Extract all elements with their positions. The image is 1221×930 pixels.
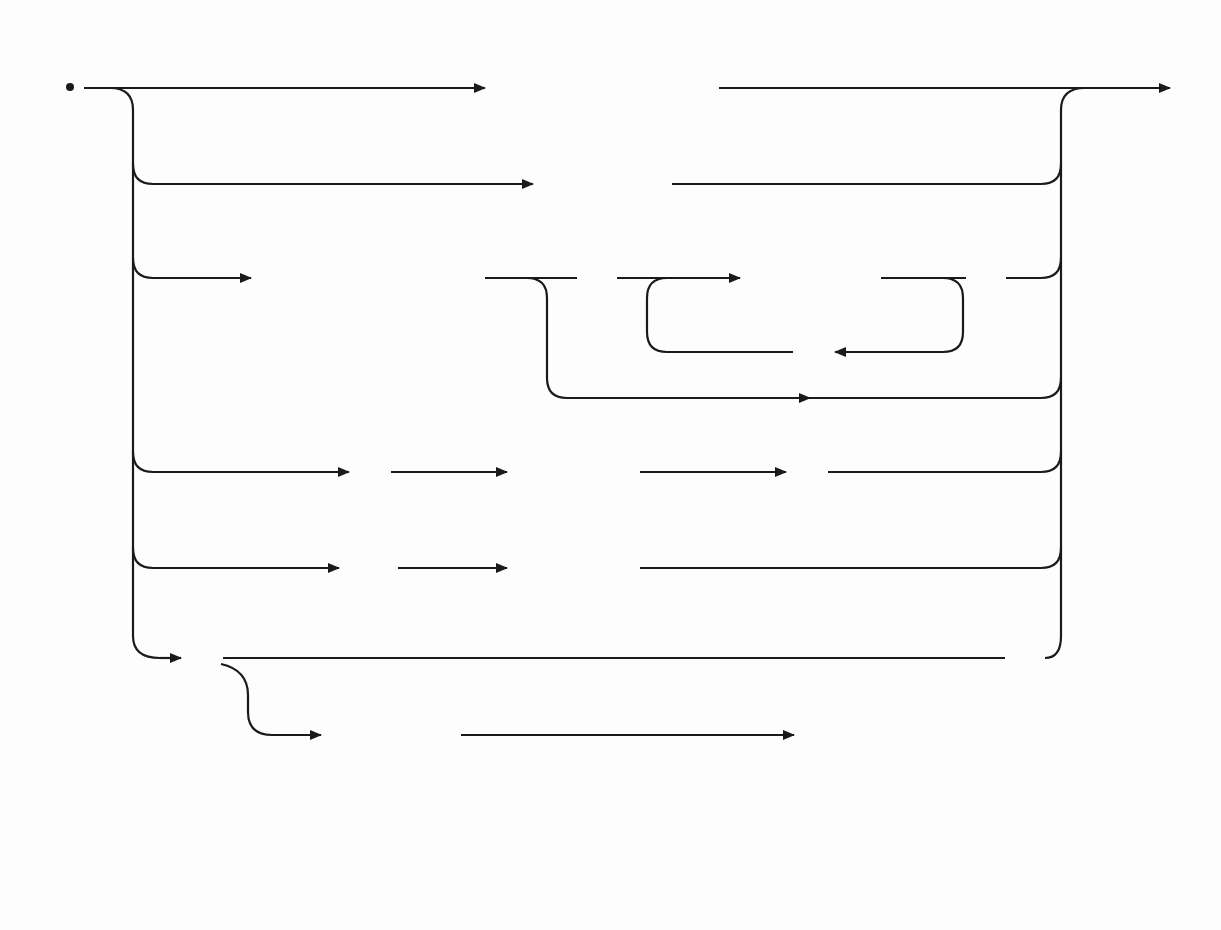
railroad-lines [0, 0, 1221, 930]
entry-dot-icon [66, 83, 74, 91]
